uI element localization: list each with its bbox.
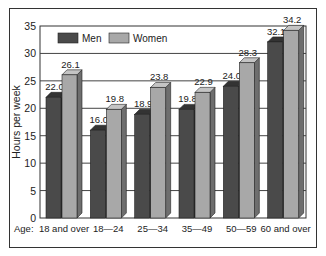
bar-value-label: 26.1 xyxy=(61,59,80,70)
bar xyxy=(179,109,194,218)
legend-label-men: Men xyxy=(82,33,101,44)
bar-value-label: 19.8 xyxy=(178,93,197,104)
y-tick-label: 10 xyxy=(24,157,36,169)
y-tick-label: 15 xyxy=(24,130,36,142)
bar-value-label: 24.0 xyxy=(223,70,242,81)
legend-swatch-men xyxy=(58,33,78,43)
bar-side xyxy=(77,70,82,218)
x-tick-label: 25—34 xyxy=(137,223,168,234)
y-tick-label: 5 xyxy=(30,185,36,197)
legend-label-women: Women xyxy=(133,33,167,44)
bar xyxy=(46,97,61,218)
bar xyxy=(239,63,254,218)
bar-value-label: 16.0 xyxy=(90,114,109,125)
x-tick-label: 35—49 xyxy=(182,223,213,234)
y-tick-label: 30 xyxy=(24,47,36,59)
y-tick-label: 20 xyxy=(24,102,36,114)
x-tick-label: 18 and over xyxy=(39,223,89,234)
y-tick-label: 35 xyxy=(24,20,36,32)
y-tick-label: 25 xyxy=(24,75,36,87)
x-tick-label: 18—24 xyxy=(93,223,124,234)
bar-side xyxy=(121,104,126,218)
bar-side xyxy=(210,87,215,218)
bar xyxy=(284,30,299,218)
x-tick-label: 60 and over xyxy=(261,223,311,234)
bar xyxy=(151,87,166,218)
bar-value-label: 32.1 xyxy=(267,26,286,37)
bar-value-label: 22.0 xyxy=(45,81,64,92)
bar xyxy=(135,114,150,218)
bar xyxy=(90,130,105,218)
bar-value-label: 23.8 xyxy=(150,71,169,82)
bar xyxy=(223,86,238,218)
bar-side xyxy=(166,82,171,218)
y-axis-label: Hours per week xyxy=(10,84,22,158)
bar xyxy=(195,92,210,218)
x-tick-label: 50—59 xyxy=(226,223,257,234)
x-axis-label: Age: xyxy=(14,223,34,234)
bar xyxy=(106,109,121,218)
bar-side xyxy=(254,58,259,218)
bar-side xyxy=(299,25,304,218)
bar xyxy=(62,75,77,218)
legend-swatch-women xyxy=(109,33,129,43)
bar-value-label: 19.8 xyxy=(106,93,125,104)
bar-value-label: 28.3 xyxy=(239,47,258,58)
bar-value-label: 18.9 xyxy=(134,98,153,109)
bar xyxy=(268,42,283,218)
bar-value-label: 34.2 xyxy=(283,14,302,25)
bar-value-label: 22.9 xyxy=(194,76,213,87)
bar-chart: 05101520253035Hours per week22.026.118 a… xyxy=(0,0,326,256)
